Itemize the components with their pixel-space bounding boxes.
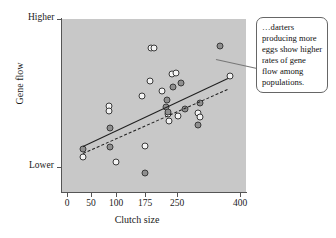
x-axis-tick-label: 100 (109, 198, 123, 208)
x-axis-tick (67, 192, 68, 197)
data-point-open-circles (151, 45, 158, 52)
data-point-open-circles (113, 158, 120, 165)
y-axis-title: Gene flow (14, 49, 25, 119)
x-axis-tick (177, 192, 178, 197)
y-axis-label-higher: Higher (28, 12, 54, 22)
data-point-open-circles (173, 69, 180, 76)
data-point-open-circles (166, 118, 173, 125)
data-point-filled-circles (178, 80, 185, 87)
y-axis-label-lower: Lower (29, 160, 54, 170)
y-axis-tick-lower (57, 167, 62, 168)
x-axis-tick (145, 192, 146, 197)
data-point-open-circles (159, 87, 166, 94)
x-axis-tick (240, 192, 241, 197)
x-axis-tick-label: 175 (138, 198, 152, 208)
data-point-open-circles (142, 142, 149, 149)
data-point-filled-circles (169, 83, 176, 90)
data-point-open-circles (174, 113, 181, 120)
annotation-callout: …darters producing more eggs show higher… (256, 17, 328, 93)
x-axis-tick-label: 250 (170, 198, 184, 208)
x-axis-tick-label: 0 (65, 198, 70, 208)
y-axis-tick-higher (57, 19, 62, 20)
x-axis-tick (116, 192, 117, 197)
data-point-filled-circles (195, 121, 202, 128)
data-point-open-circles (146, 78, 153, 85)
data-point-open-circles (139, 92, 146, 99)
x-axis-tick-label: 50 (86, 198, 96, 208)
x-axis-line (61, 192, 247, 193)
x-axis-title: Clutch size (0, 214, 336, 225)
data-point-filled-circles (107, 143, 114, 150)
x-axis-title-text: Clutch size (115, 214, 160, 225)
scatter-plot-figure: Higher Lower Gene flow 050100175250400 C… (0, 0, 336, 238)
x-axis-tick-label: 400 (233, 198, 247, 208)
x-axis-tick (91, 192, 92, 197)
data-point-filled-circles (163, 97, 170, 104)
data-point-filled-circles (216, 42, 223, 49)
data-point-open-circles (197, 114, 204, 121)
data-point-filled-circles (142, 169, 149, 176)
data-point-filled-circles (107, 124, 114, 131)
data-point-open-circles (105, 108, 112, 115)
